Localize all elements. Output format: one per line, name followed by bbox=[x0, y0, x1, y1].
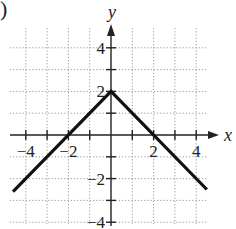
x-tick-label: 4 bbox=[192, 142, 201, 161]
y-tick-label: −4 bbox=[87, 213, 106, 229]
y-tick-label: 4 bbox=[97, 39, 106, 58]
x-tick-label: −4 bbox=[17, 142, 36, 161]
coordinate-plane: −4−22442−2−4xy bbox=[0, 0, 236, 229]
x-tick-label: −2 bbox=[59, 142, 77, 161]
function-graph-line bbox=[13, 91, 207, 191]
graph-figure: ) −4−22442−2−4xy bbox=[0, 0, 236, 229]
x-axis-arrow-icon bbox=[208, 131, 219, 139]
y-tick-label: −2 bbox=[87, 170, 105, 189]
figure-label: ) bbox=[0, 0, 7, 22]
y-axis-arrow-icon bbox=[107, 24, 115, 36]
x-tick-label: 2 bbox=[149, 142, 158, 161]
x-axis-label: x bbox=[223, 125, 232, 145]
y-axis-label: y bbox=[106, 2, 116, 22]
